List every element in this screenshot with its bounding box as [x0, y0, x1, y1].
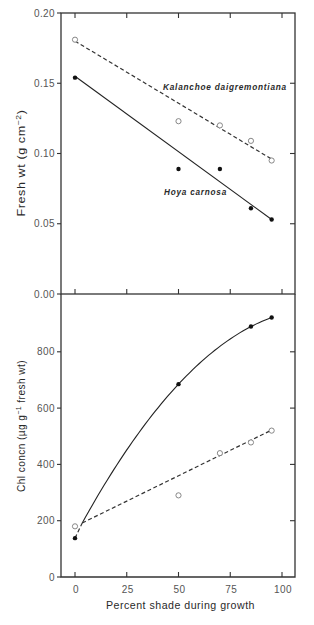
figure: Fresh wt (g cm−2) Chl concn (µg g−1 fres…	[0, 0, 314, 625]
data-point-filled	[73, 536, 77, 540]
x-tick-label: 25	[122, 584, 134, 595]
y-tick-label: 0.00	[34, 289, 55, 300]
axis-frame	[61, 13, 295, 294]
chart-canvas: Fresh wt (g cm−2) Chl concn (µg g−1 fres…	[0, 0, 314, 625]
data-point-open	[176, 493, 181, 498]
y-tick-label: 0.15	[34, 78, 55, 89]
data-point-open	[248, 138, 253, 143]
data-point-open	[217, 451, 222, 456]
x-tick-label: 50	[174, 584, 186, 595]
x-tick-label: 100	[274, 584, 292, 595]
data-point-filled	[269, 217, 273, 221]
y-axis-title-chlorophyll: Chl concn (µg g−1 fresh wt)	[14, 360, 27, 492]
data-point-filled	[73, 75, 77, 79]
fit-line-hoya	[82, 318, 271, 523]
y-axis-title-superscript: −1	[14, 406, 23, 415]
data-point-open	[217, 123, 222, 128]
data-point-open	[72, 524, 77, 529]
data-point-open	[269, 428, 274, 433]
y-tick-label: 400	[37, 459, 55, 470]
fit-line-hoya	[75, 76, 272, 219]
series-label-kalanchoe: Kalanchoe daigremontiana	[163, 81, 287, 92]
y-tick-label: 600	[37, 403, 55, 414]
data-point-open	[269, 158, 274, 163]
data-point-filled	[249, 206, 253, 210]
fit-line-kalanchoe	[75, 41, 272, 159]
x-axis-title: Percent shade during growth	[106, 599, 255, 611]
y-tick-label: 200	[37, 515, 55, 526]
fit-line-kalanchoe	[82, 430, 271, 523]
data-point-open	[72, 37, 77, 42]
y-axis-title-main: Fresh wt (g cm	[15, 125, 27, 216]
data-point-open	[248, 440, 253, 445]
series-label-hoya: Hoya carnosa	[164, 186, 227, 197]
data-point-open	[176, 119, 181, 124]
panel-top: 0.000.050.100.150.20Kalanchoe daigremont…	[34, 8, 295, 300]
y-axis-title-fresh-weight: Fresh wt (g cm−2)	[14, 110, 27, 217]
y-tick-label: 800	[37, 346, 55, 357]
y-axis-title-main: Chl concn (µg g	[15, 415, 27, 492]
y-tick-label: 0	[49, 572, 55, 583]
data-point-filled	[249, 324, 253, 328]
plot-area: 0.000.050.100.150.20Kalanchoe daigremont…	[34, 8, 295, 596]
y-axis-title-close: )	[15, 110, 27, 115]
y-axis-title-rest: fresh wt)	[15, 360, 27, 406]
y-tick-label: 0.20	[34, 8, 55, 19]
panel-bottom: 02550751000200400600800	[37, 294, 295, 595]
data-point-filled	[176, 167, 180, 171]
y-axis-title-superscript: −2	[14, 114, 23, 125]
x-tick-label: 0	[73, 584, 79, 595]
data-point-filled	[269, 315, 273, 319]
y-tick-label: 0.05	[34, 218, 55, 229]
y-tick-label: 0.10	[34, 148, 55, 159]
x-tick-label: 75	[225, 584, 237, 595]
data-point-filled	[218, 167, 222, 171]
data-point-filled	[176, 382, 180, 386]
